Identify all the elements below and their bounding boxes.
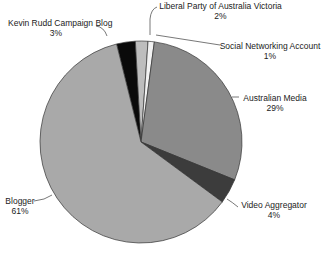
label-percent: 3%	[8, 28, 104, 38]
label-name: Australian Media	[240, 93, 310, 103]
label-kevin-rudd-campaign-blog: Kevin Rudd Campaign Blog 3%	[8, 18, 104, 38]
label-blogger: Blogger 61%	[4, 196, 36, 216]
label-name: Social Networking Account	[218, 41, 322, 51]
pie-chart	[0, 0, 329, 259]
leader-liberal-party	[150, 7, 157, 35]
label-name: Liberal Party of Australia Victoria	[158, 1, 283, 11]
leader-video-aggregator	[227, 199, 238, 207]
label-name: Kevin Rudd Campaign Blog	[8, 18, 104, 28]
pie-slices	[40, 41, 242, 243]
leader-blogger	[34, 195, 52, 201]
label-name: Blogger	[4, 196, 36, 206]
label-percent: 1%	[218, 51, 322, 61]
label-social-networking-account: Social Networking Account 1%	[218, 41, 322, 61]
label-percent: 29%	[240, 103, 310, 113]
label-liberal-party: Liberal Party of Australia Victoria 2%	[158, 1, 283, 21]
leader-social-networking	[156, 35, 220, 45]
label-name: Video Aggregator	[238, 200, 310, 210]
label-australian-media: Australian Media 29%	[240, 93, 310, 113]
label-percent: 4%	[238, 210, 310, 220]
label-video-aggregator: Video Aggregator 4%	[238, 200, 310, 220]
label-percent: 2%	[158, 11, 283, 21]
label-percent: 61%	[4, 206, 36, 216]
